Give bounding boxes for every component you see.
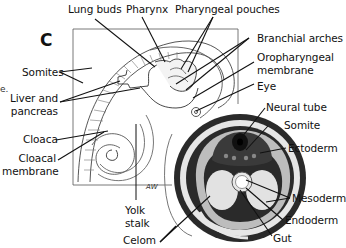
label-neural-tube: Neural tube xyxy=(266,101,327,113)
panel-letter: C xyxy=(40,30,52,50)
label-yolk-stalk-line1: Yolk xyxy=(125,204,145,216)
label-lung-buds: Lung buds xyxy=(68,3,122,15)
artist-mark: AW xyxy=(146,183,158,191)
label-pharynx: Pharynx xyxy=(126,3,168,15)
label-oropharyngeal-membrane-line1: Oropharyngeal xyxy=(257,51,334,63)
label-ectoderm: Ectoderm xyxy=(288,142,338,154)
label-yolk-stalk-line2: stalk xyxy=(125,217,150,229)
label-somites: Somites xyxy=(22,66,64,78)
label-liver-pancreas-line2: pancreas xyxy=(8,105,58,117)
label-celom: Celom xyxy=(123,234,156,246)
label-pharyngeal-pouches: Pharyngeal pouches xyxy=(175,3,280,15)
label-oropharyngeal-membrane-line2: membrane xyxy=(257,64,314,76)
label-liver-pancreas-line1: Liver and xyxy=(8,92,58,104)
label-cloacal-membrane-line1: Cloacal xyxy=(2,152,56,164)
label-branchial-arches: Branchial arches xyxy=(257,32,343,44)
label-endoderm: Endoderm xyxy=(285,214,338,226)
label-mesoderm: Mesoderm xyxy=(292,192,346,204)
label-eye: Eye xyxy=(257,80,276,92)
label-gut: Gut xyxy=(273,232,292,244)
label-cloacal-membrane-line2: membrane xyxy=(2,165,56,177)
label-cloaca: Cloaca xyxy=(23,133,58,145)
label-somite: Somite xyxy=(284,119,320,131)
